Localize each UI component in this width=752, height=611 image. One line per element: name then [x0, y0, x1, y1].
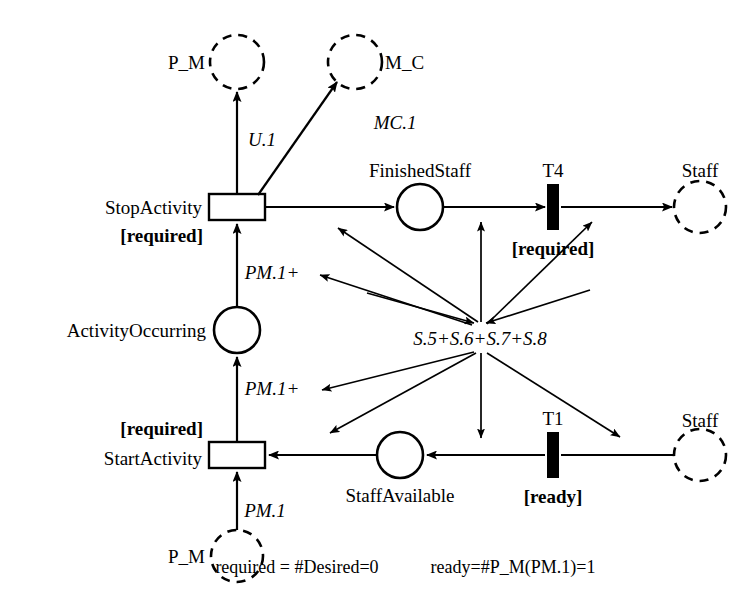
- legend-ready: ready=#P_M(PM.1)=1: [431, 558, 596, 576]
- transition-t4: [547, 184, 559, 230]
- transition-label-startactivity: StartActivity: [104, 449, 202, 468]
- place-m-c: [328, 35, 382, 89]
- arc-hub-to-pm1plus-bottom: [322, 352, 474, 390]
- arc-hub-to-startactivity-region: [330, 353, 476, 433]
- transition-guard-t1: [ready]: [524, 487, 583, 506]
- transition-guard-t4: [required]: [512, 239, 595, 258]
- place-label-staff-bottom: Staff: [682, 411, 719, 430]
- place-label-activityoccurring: ActivityOccurring: [67, 321, 206, 340]
- place-label-finishedstaff: FinishedStaff: [369, 161, 471, 180]
- hub-label-s-sum: S.5+S.6+S.7+S.8: [413, 329, 546, 348]
- transition-label-t4: T4: [542, 161, 563, 180]
- arc-label-mc1: MC.1: [374, 113, 417, 132]
- transition-guard-stopactivity: [required]: [120, 226, 203, 245]
- arc-label-pm1-plus-top: PM.1+: [245, 263, 300, 282]
- transition-guard-startactivity: [required]: [120, 419, 203, 438]
- place-staff-top: [674, 181, 726, 233]
- place-label-m-c: M_C: [385, 53, 424, 72]
- arc-label-pm1-bottom: PM.1: [244, 501, 286, 520]
- place-label-p-m-bottom: P_M: [168, 547, 205, 566]
- transition-stopactivity: [209, 194, 265, 220]
- arc-label-u1: U.1: [248, 130, 276, 149]
- transition-label-t1: T1: [542, 409, 563, 428]
- place-label-staffavailable: StaffAvailable: [345, 486, 454, 505]
- place-finishedstaff: [397, 184, 443, 230]
- arc-hub-to-pm1plus-top: [320, 275, 472, 325]
- legend-required: required = #Desired=0: [215, 558, 378, 576]
- place-staffavailable: [377, 432, 423, 478]
- transition-label-stopactivity: StopActivity: [105, 198, 202, 217]
- place-label-p-m-top: P_M: [168, 53, 205, 72]
- place-staff-bottom: [674, 429, 726, 481]
- arc-label-pm1-plus-bottom: PM.1+: [245, 379, 300, 398]
- transition-t1: [547, 432, 559, 478]
- place-p-m-top: [210, 35, 264, 89]
- transition-startactivity: [209, 442, 265, 468]
- place-label-staff-top: Staff: [682, 161, 719, 180]
- arc-hub-in-from-upper-right: [486, 290, 590, 323]
- petri-net-canvas: [0, 0, 752, 611]
- arc-hub-to-finishedstaff-region: [338, 228, 478, 322]
- place-activityoccurring: [214, 307, 260, 353]
